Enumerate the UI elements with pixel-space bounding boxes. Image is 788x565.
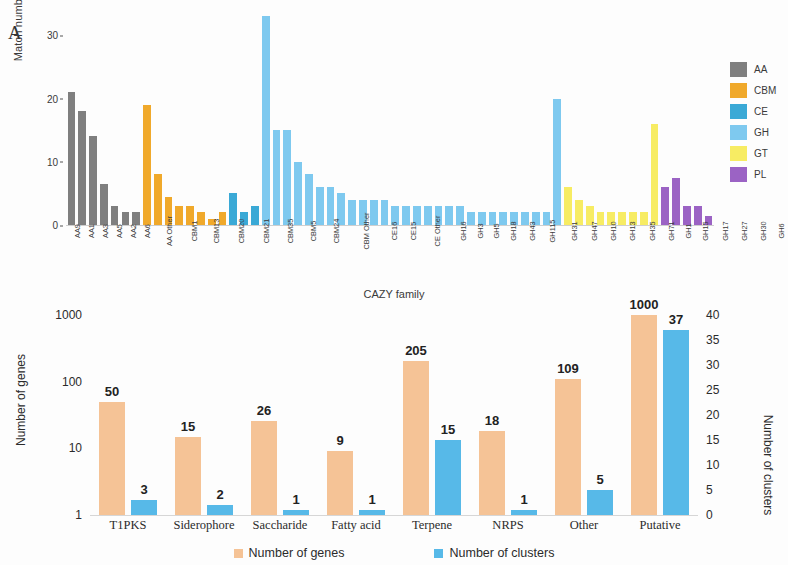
panel-a-bar-cell	[509, 10, 520, 225]
panel-a-y-tick: 10	[47, 156, 58, 167]
panel-b-legend-label: Number of genes	[249, 546, 345, 560]
panel-b-clusters-bar	[435, 440, 461, 515]
panel-b-y-tick-right: 25	[706, 383, 719, 397]
panel-b-clusters-value-label: 37	[646, 312, 706, 327]
panel-a-x-tick-labels: AA9AA1AA3AA5AA2AA6AA OtherCBM1CBM13CBM20…	[66, 227, 714, 285]
panel-a-bar-cell	[77, 10, 88, 225]
panel-a-bar-cell	[88, 10, 99, 225]
panel-b-y-tick-right: 5	[706, 483, 713, 497]
panel-a-legend-item: GH	[730, 125, 776, 140]
panel-b-group: 503	[90, 315, 166, 515]
panel-b-y-tick-left: 1	[75, 508, 82, 522]
panel-b-clusters-bar-wrap: 1	[359, 315, 385, 515]
panel-a-bar-cell	[530, 10, 541, 225]
panel-a-bar-cell	[379, 10, 390, 225]
panel-b-legend-item: Number of genes	[234, 546, 345, 560]
panel-a-legend-label: GH	[754, 127, 769, 138]
panel-b-genes-bar	[631, 315, 657, 515]
panel-a-bar-cell	[304, 10, 315, 225]
panel-b-clusters-bar	[663, 330, 689, 515]
panel-b-clusters-bar-wrap: 3	[131, 315, 157, 515]
panel-b-plot-area: 50315226191205151811095100037	[90, 315, 698, 515]
panel-a-bar-cell	[336, 10, 347, 225]
panel-b-group: 152	[166, 315, 242, 515]
panel-a-bar	[143, 105, 151, 225]
panel-b-y-tick-right: 40	[706, 308, 719, 322]
panel-b-x-tick-label: Terpene	[394, 518, 470, 533]
panel-b-clusters-value-label: 1	[342, 492, 402, 507]
panel-b-genes-bar-wrap: 205	[403, 315, 429, 515]
panel-a-bar-cell	[206, 10, 217, 225]
panel-b-group: 181	[470, 315, 546, 515]
panel-a-legend-label: CE	[754, 106, 768, 117]
panel-b-y-axis-title-left: Number of genes	[14, 325, 28, 475]
panel-a-legend-item: PL	[730, 167, 776, 182]
panel-a-y-tick: 30	[47, 30, 58, 41]
panel-a-bar	[553, 99, 561, 225]
panel-a-bar-cell	[627, 10, 638, 225]
panel-b-y-tick-right: 0	[706, 508, 713, 522]
panel-a-bar	[154, 174, 162, 225]
panel-a-bar-cell	[617, 10, 628, 225]
panel-a-bar-cell	[185, 10, 196, 225]
panel-b-legend-label: Number of clusters	[449, 546, 554, 560]
panel-a-x-tick: AA9	[66, 227, 80, 285]
panel-a-bar-cell	[314, 10, 325, 225]
panel-a-bar-cell	[584, 10, 595, 225]
panel-b-clusters-bar-wrap: 2	[207, 315, 233, 515]
panel-a-bar	[661, 187, 669, 225]
panel-b-bar-groups: 50315226191205151811095100037	[90, 315, 698, 515]
panel-b-clusters-bar-wrap: 15	[435, 315, 461, 515]
panel-a-bar-cell	[498, 10, 509, 225]
panel-a-bar-cell	[282, 10, 293, 225]
legend-color-swatch	[730, 62, 747, 77]
legend-color-swatch	[730, 83, 747, 98]
panel-b-genes-value-label: 1000	[614, 297, 674, 312]
legend-color-swatch	[730, 146, 747, 161]
panel-b-y-tick-right: 30	[706, 358, 719, 372]
panel-a-legend-label: AA	[754, 64, 767, 75]
panel-b-axis-line	[90, 515, 698, 516]
panel-a-bar-cell	[66, 10, 77, 225]
panel-a-bar-cell	[152, 10, 163, 225]
panel-a-bar-cell	[455, 10, 466, 225]
panel-a-bar-cell	[703, 10, 714, 225]
panel-b-legend-item: Number of clusters	[434, 546, 554, 560]
panel-b-x-tick-label: Fatty acid	[318, 518, 394, 533]
panel-a-bar-cell	[638, 10, 649, 225]
panel-a-bar-cell	[519, 10, 530, 225]
panel-a-bar	[78, 111, 86, 225]
panel-a-bar-cell	[660, 10, 671, 225]
legend-color-swatch	[730, 167, 747, 182]
panel-a-legend-item: CE	[730, 104, 776, 119]
panel-a-bar-cell	[163, 10, 174, 225]
panel-b-clusters-bar	[207, 505, 233, 515]
panel-a-legend-item: CBM	[730, 83, 776, 98]
panel-a-bar-cell	[347, 10, 358, 225]
panel-a-x-tick-label: GH6	[776, 223, 788, 238]
panel-a-bar-cell	[131, 10, 142, 225]
panel-a-bar-cell	[217, 10, 228, 225]
panel-a-bar	[262, 16, 270, 225]
panel-a-legend-item: GT	[730, 146, 776, 161]
panel-a-bar	[305, 174, 313, 225]
panel-b-clusters-value-label: 1	[494, 492, 554, 507]
panel-b-x-tick-label: Siderophore	[166, 518, 242, 533]
panel-b-clusters-bar-wrap: 1	[511, 315, 537, 515]
panel-b-clusters-bar-wrap: 37	[663, 315, 689, 515]
panel-b-x-tick-label: Other	[546, 518, 622, 533]
panel-a-bar-cell	[142, 10, 153, 225]
panel-a-bar	[294, 162, 302, 225]
panel-b-genes-bar	[99, 402, 125, 515]
panel-b-group: 1095	[546, 315, 622, 515]
panel-b-legend: Number of genesNumber of clusters	[0, 546, 788, 560]
panel-a-bar-cell	[444, 10, 455, 225]
panel-b-y-tick-right: 20	[706, 408, 719, 422]
panel-a-bar-cell	[401, 10, 412, 225]
panel-a-bar-cell	[368, 10, 379, 225]
panel-a-bar	[672, 178, 680, 225]
panel-a-y-tick: 20	[47, 93, 58, 104]
panel-b-y-axis-left: 1000100101	[40, 315, 86, 515]
panel-a-legend-label: PL	[754, 169, 766, 180]
panel-b-x-tick-label: T1PKS	[90, 518, 166, 533]
